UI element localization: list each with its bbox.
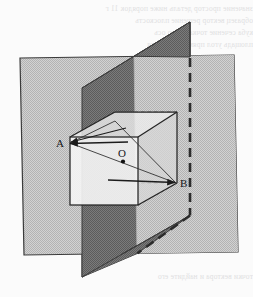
center-point-marker [121, 159, 125, 163]
label-vertex-b: B [180, 177, 187, 189]
label-vertex-a: A [56, 137, 64, 149]
geometry-diagram: A B O [0, 0, 253, 297]
label-center-o: O [118, 147, 126, 159]
figure-container: значение простор деталь ниже порядок 11 … [0, 0, 253, 297]
